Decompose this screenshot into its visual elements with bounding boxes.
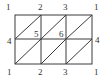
diagonal-bottom-3	[66, 39, 92, 64]
grid-diagram: 1 2 3 1 4 4 5 6 1 2 3 1	[0, 0, 105, 80]
label-top-2: 2	[38, 2, 43, 12]
label-interior-5: 5	[34, 29, 39, 39]
label-top-right: 1	[94, 2, 99, 12]
label-bottom-3: 3	[63, 67, 68, 77]
label-mid-right: 4	[95, 35, 100, 45]
label-bottom-left: 1	[7, 67, 12, 77]
label-bottom-right: 1	[94, 67, 99, 77]
label-bottom-2: 2	[38, 67, 43, 77]
label-interior-6: 6	[59, 29, 64, 39]
diagonal-top-3	[66, 15, 92, 39]
label-top-left: 1	[6, 2, 11, 12]
diagonal-bottom-1	[15, 39, 41, 64]
label-top-3: 3	[63, 2, 68, 12]
label-mid-left: 4	[7, 36, 12, 46]
diagonal-bottom-2	[41, 39, 66, 64]
